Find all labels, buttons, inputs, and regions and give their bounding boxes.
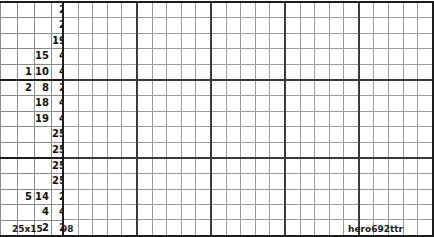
grid-cell[interactable] [359, 80, 374, 96]
grid-row[interactable] [63, 142, 433, 158]
grid-cell[interactable] [93, 189, 108, 204]
grid-cell[interactable] [137, 205, 152, 220]
grid-cell[interactable] [78, 64, 93, 80]
grid-cell[interactable] [344, 142, 359, 158]
grid-cell[interactable] [93, 80, 108, 96]
grid-cell[interactable] [329, 127, 344, 142]
grid-cell[interactable] [63, 18, 78, 33]
grid-cell[interactable] [285, 80, 300, 96]
grid-cell[interactable] [122, 33, 137, 48]
grid-cell[interactable] [285, 142, 300, 158]
grid-cell[interactable] [226, 220, 241, 236]
grid-cell[interactable] [137, 111, 152, 126]
grid-cell[interactable] [137, 142, 152, 158]
grid-cell[interactable] [285, 64, 300, 80]
grid-cell[interactable] [255, 127, 270, 142]
grid-cell[interactable] [315, 174, 330, 189]
grid-cell[interactable] [374, 33, 389, 48]
grid-cell[interactable] [226, 80, 241, 96]
grid-cell[interactable] [359, 2, 374, 18]
grid-cell[interactable] [344, 49, 359, 64]
grid-cell[interactable] [167, 111, 182, 126]
grid-cell[interactable] [211, 158, 226, 174]
grid-cell[interactable] [211, 174, 226, 189]
grid-cell[interactable] [167, 127, 182, 142]
grid-cell[interactable] [196, 142, 211, 158]
grid-cell[interactable] [241, 18, 256, 33]
grid-cell[interactable] [152, 18, 167, 33]
grid-cell[interactable] [285, 158, 300, 174]
grid-cell[interactable] [255, 49, 270, 64]
grid-cell[interactable] [93, 49, 108, 64]
grid-cell[interactable] [418, 111, 433, 126]
grid-cell[interactable] [122, 111, 137, 126]
grid-cell[interactable] [122, 2, 137, 18]
grid-cell[interactable] [93, 142, 108, 158]
grid-cell[interactable] [403, 18, 418, 33]
grid-cell[interactable] [241, 111, 256, 126]
grid-cell[interactable] [285, 220, 300, 236]
grid-cell[interactable] [93, 33, 108, 48]
grid-cell[interactable] [241, 49, 256, 64]
grid-cell[interactable] [107, 49, 122, 64]
grid-cell[interactable] [403, 142, 418, 158]
grid-cell[interactable] [359, 18, 374, 33]
grid-cell[interactable] [137, 80, 152, 96]
grid-cell[interactable] [389, 2, 404, 18]
grid-cell[interactable] [226, 2, 241, 18]
grid-cell[interactable] [300, 64, 315, 80]
grid-cell[interactable] [196, 2, 211, 18]
grid-cell[interactable] [329, 49, 344, 64]
grid-cell[interactable] [389, 64, 404, 80]
grid-cell[interactable] [196, 111, 211, 126]
grid-cell[interactable] [359, 64, 374, 80]
grid-cell[interactable] [344, 158, 359, 174]
grid-cell[interactable] [152, 205, 167, 220]
grid-cell[interactable] [226, 174, 241, 189]
grid-cell[interactable] [122, 127, 137, 142]
grid-cell[interactable] [255, 189, 270, 204]
grid-cell[interactable] [107, 127, 122, 142]
grid-cell[interactable] [211, 96, 226, 111]
grid-cell[interactable] [122, 189, 137, 204]
grid-cell[interactable] [374, 64, 389, 80]
grid-cell[interactable] [196, 127, 211, 142]
grid-cell[interactable] [63, 80, 78, 96]
grid-cell[interactable] [137, 49, 152, 64]
grid-cell[interactable] [270, 64, 285, 80]
grid-cell[interactable] [403, 174, 418, 189]
grid-row[interactable] [63, 127, 433, 142]
grid-cell[interactable] [359, 96, 374, 111]
grid-cell[interactable] [270, 2, 285, 18]
grid-cell[interactable] [300, 96, 315, 111]
grid-row[interactable] [63, 18, 433, 33]
grid-cell[interactable] [418, 96, 433, 111]
grid-cell[interactable] [359, 142, 374, 158]
grid-cell[interactable] [418, 158, 433, 174]
grid-cell[interactable] [137, 189, 152, 204]
grid-cell[interactable] [270, 158, 285, 174]
grid-cell[interactable] [374, 174, 389, 189]
grid-cell[interactable] [93, 2, 108, 18]
grid-cell[interactable] [389, 49, 404, 64]
grid-cell[interactable] [300, 142, 315, 158]
grid-cell[interactable] [78, 80, 93, 96]
grid-cell[interactable] [359, 111, 374, 126]
grid-cell[interactable] [181, 49, 196, 64]
grid-cell[interactable] [315, 49, 330, 64]
grid-cell[interactable] [403, 49, 418, 64]
grid-cell[interactable] [122, 96, 137, 111]
grid-cell[interactable] [403, 158, 418, 174]
grid-cell[interactable] [107, 189, 122, 204]
grid-cell[interactable] [226, 158, 241, 174]
grid-cell[interactable] [389, 96, 404, 111]
grid-cell[interactable] [359, 127, 374, 142]
grid-cell[interactable] [107, 174, 122, 189]
grid-cell[interactable] [403, 80, 418, 96]
grid-cell[interactable] [211, 205, 226, 220]
grid-cell[interactable] [315, 205, 330, 220]
grid-cell[interactable] [241, 33, 256, 48]
grid-cell[interactable] [78, 205, 93, 220]
grid-cell[interactable] [137, 220, 152, 236]
grid-cell[interactable] [211, 33, 226, 48]
